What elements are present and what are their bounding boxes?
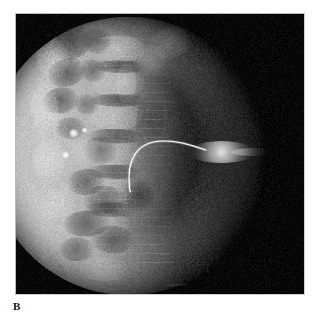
- radiograph-image: [16, 14, 304, 294]
- panel-label: B: [13, 300, 20, 312]
- radiograph-frame: [15, 13, 305, 295]
- figure-panel: B: [0, 0, 316, 321]
